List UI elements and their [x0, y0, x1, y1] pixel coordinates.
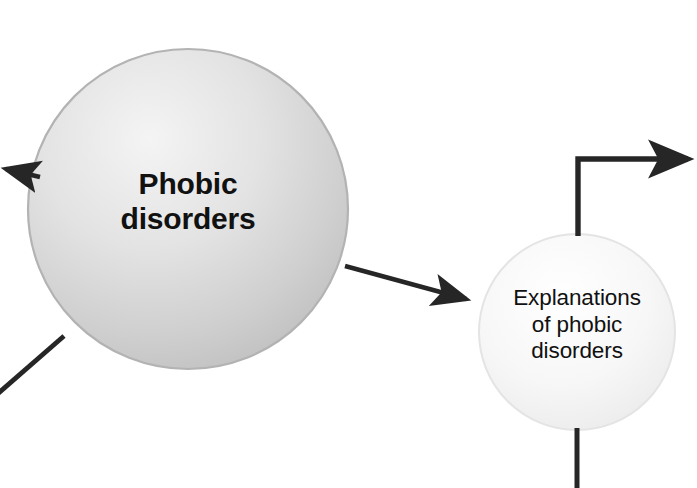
- connector-phobic-bottom-left: [0, 336, 64, 397]
- node-explanations-shape[interactable]: [479, 234, 675, 430]
- diagram-graphics-layer: [0, 0, 697, 488]
- node-phobic-disorders-shape[interactable]: [28, 49, 348, 369]
- diagram-canvas: Phobic disorders Explanations of phobic …: [0, 0, 697, 488]
- connector-explanations-top-elbow: [578, 159, 688, 236]
- connector-phobic-to-explanations: [345, 266, 466, 299]
